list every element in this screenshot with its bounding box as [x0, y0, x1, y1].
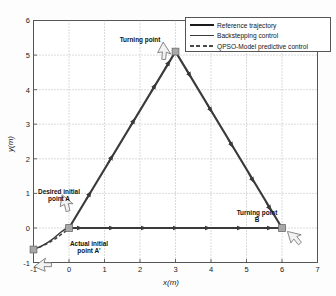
xtick-label-0: 0	[59, 266, 79, 274]
annotation-turning-point-b: Turning point B	[226, 209, 288, 224]
annotation-desired-initial-point-a: Desired initial point A	[28, 188, 90, 203]
annotation-turning-point-top: Turning point	[110, 36, 170, 43]
xtick-label-3: 3	[166, 266, 186, 274]
marker-point-a	[66, 225, 73, 232]
marker-point-b	[279, 225, 286, 232]
ytick-label-4: 4	[8, 87, 30, 95]
legend-key-backstepping-control	[189, 31, 215, 41]
x-axis-title: x(m)	[163, 279, 179, 287]
ytick-label-3: 3	[8, 121, 30, 129]
chart-legend[interactable]: Reference trajectory Backstepping contro…	[185, 17, 331, 52]
marker-apex-turning-point	[172, 48, 179, 55]
legend-label-reference-trajectory: Reference trajectory	[215, 22, 276, 29]
legend-key-qpso-mpc	[189, 41, 215, 51]
ytick-label-6: 6	[8, 17, 30, 25]
xtick-label-5: 5	[237, 266, 257, 274]
annotation-actual-initial-point-a-prime: Actual initial point A'	[58, 240, 120, 255]
xtick-label-6: 6	[272, 266, 292, 274]
xtick-label-4: 4	[201, 266, 221, 274]
ytick-label-1: 1	[8, 190, 30, 198]
legend-label-qpso-mpc: QPSO-Model predictive control	[215, 43, 308, 50]
legend-key-reference-trajectory	[189, 20, 215, 30]
y-axis-title: y(m)	[7, 136, 15, 152]
ytick-label-0: 0	[8, 225, 30, 233]
ytick-label--1: -1	[8, 260, 30, 268]
legend-label-backstepping-control: Backstepping control	[215, 32, 278, 39]
xtick-label-1: 1	[95, 266, 115, 274]
legend-entry-reference-trajectory[interactable]: Reference trajectory	[189, 20, 327, 31]
legend-entry-qpso-mpc[interactable]: QPSO-Model predictive control	[189, 41, 327, 52]
trajectory-chart-figure: Reference trajectory Backstepping contro…	[0, 0, 336, 296]
legend-entry-backstepping-control[interactable]: Backstepping control	[189, 31, 327, 42]
ytick-label-2: 2	[8, 156, 30, 164]
ytick-label-5: 5	[8, 52, 30, 60]
xtick-label-2: 2	[130, 266, 150, 274]
marker-point-a-prime	[30, 246, 37, 253]
xtick-label-7: 7	[308, 266, 328, 274]
